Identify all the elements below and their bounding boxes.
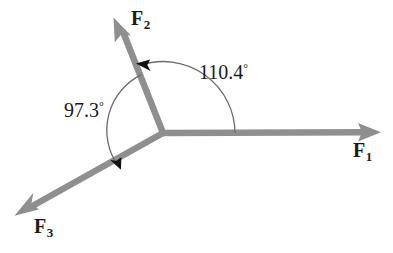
vector-f3-shaft	[32, 133, 164, 207]
angle-label-110: 110.4°	[199, 62, 248, 82]
vector-label-f2: F2	[131, 8, 150, 31]
vector-label-f1: F1	[353, 140, 372, 163]
vector-label-f1-subscript: 1	[365, 149, 372, 164]
vector-f2	[114, 18, 164, 134]
vector-f3	[15, 133, 164, 216]
vector-f1	[163, 123, 381, 142]
force-vector-diagram: F1 F2 F3 110.4° 97.3°	[0, 0, 393, 253]
vector-label-f3: F3	[34, 216, 53, 239]
vector-f1-shaft	[163, 132, 364, 133]
angle-label-110-value: 110.4	[199, 61, 243, 83]
vector-label-f2-subscript: 2	[143, 17, 150, 32]
angle-label-97-value: 97.3	[64, 99, 99, 121]
angle-label-110-degree-symbol: °	[243, 61, 248, 75]
vector-canvas	[0, 0, 393, 253]
vector-f2-shaft	[123, 31, 164, 134]
angle-label-97: 97.3°	[64, 100, 104, 120]
vector-label-f1-base: F	[353, 139, 365, 161]
vector-label-f2-base: F	[131, 7, 143, 29]
vector-label-f3-base: F	[34, 215, 46, 237]
vector-label-f3-subscript: 3	[46, 225, 53, 240]
angle-label-97-degree-symbol: °	[99, 99, 104, 113]
